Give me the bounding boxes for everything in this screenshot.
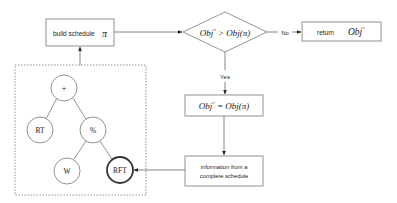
assign-box: Obj* = Obj(π) xyxy=(185,95,263,116)
assign-expression: Obj* = Obj(π) xyxy=(199,101,250,111)
svg-text:%: % xyxy=(90,126,96,135)
return-box: return Obj* xyxy=(302,22,381,41)
tree-node-w: W xyxy=(54,158,80,184)
decision-diamond: Obj* > Obj(π) xyxy=(183,12,267,52)
no-label: No xyxy=(281,30,289,36)
info-line-1: information from a xyxy=(201,164,248,170)
svg-text:W: W xyxy=(63,167,71,176)
build-schedule-box: build schedule π xyxy=(46,19,114,46)
flowchart-diagram: build schedule π Obj* > Obj(π) No return… xyxy=(0,0,397,203)
tree-node-rft: RFT xyxy=(107,157,133,183)
info-line-2: complete schedule xyxy=(200,173,248,179)
build-schedule-label: build schedule xyxy=(53,30,95,37)
svg-text:RFT: RFT xyxy=(113,166,127,175)
tree-node-root: + xyxy=(51,75,77,101)
decision-condition: Obj* > Obj(π) xyxy=(200,28,251,38)
yes-label: Yes xyxy=(220,74,230,80)
tree-node-percent: % xyxy=(80,117,106,143)
info-box: information from a complete schedule xyxy=(185,156,263,186)
return-label: return xyxy=(317,29,334,36)
svg-text:RT: RT xyxy=(35,126,45,135)
tree-node-rt: RT xyxy=(27,117,53,143)
svg-text:+: + xyxy=(62,84,67,93)
